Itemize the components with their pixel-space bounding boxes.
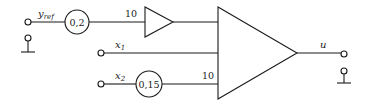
- summer-x2-gain-label: 10: [202, 70, 214, 81]
- output-terminal: [341, 51, 347, 57]
- output-label: u: [320, 39, 326, 50]
- x2-input-terminal: [98, 81, 136, 87]
- x1-input-terminal: [98, 50, 218, 56]
- x1-label: x1: [115, 39, 125, 52]
- scaler-x2-block: 0,15: [136, 71, 162, 97]
- amp-input-gain-label: 10: [125, 8, 137, 19]
- block-diagram: yref 0,2 10 x1 x2 0,15 10 u: [0, 0, 369, 104]
- yref-ground-icon: [21, 35, 35, 52]
- summing-amplifier-triangle: [218, 7, 297, 99]
- x2-label: x2: [115, 70, 126, 83]
- scaler-yref-value: 0,2: [69, 17, 84, 28]
- scaler-yref-block: 0,2: [65, 10, 89, 34]
- yref-label: yref: [37, 8, 55, 21]
- output-ground-icon: [337, 68, 351, 83]
- small-amplifier-triangle: [145, 7, 173, 37]
- scaler-x2-value: 0,15: [138, 79, 159, 90]
